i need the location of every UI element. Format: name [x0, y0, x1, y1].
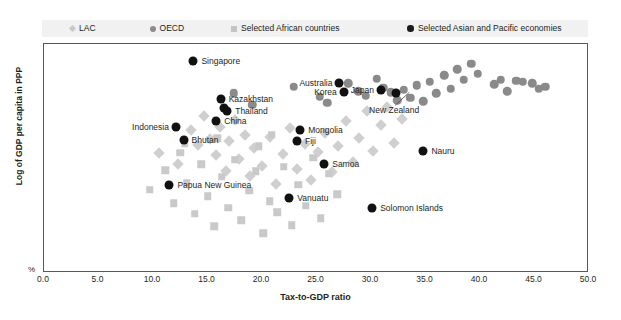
data-point-lac	[369, 147, 377, 155]
point-label: Kazakhstan	[229, 94, 273, 104]
data-point-african	[310, 154, 318, 162]
legend-item-oecd[interactable]: OECD	[150, 20, 185, 37]
data-point-african	[197, 161, 205, 169]
point-label: Japan	[351, 85, 374, 95]
square-icon	[231, 26, 237, 32]
x-axis-tick-label: 35.0	[416, 274, 433, 284]
data-point-lac	[241, 131, 249, 139]
x-axis-tick-label: 20.0	[253, 274, 270, 284]
point-label: Nauru	[431, 146, 454, 156]
point-label: Papua New Guinea	[177, 180, 251, 190]
data-point-lac	[155, 149, 163, 157]
y-axis-title: Log of GDP per capita in PPP	[14, 36, 24, 216]
data-point-african	[210, 222, 218, 230]
data-point-asia-pacific	[419, 146, 428, 155]
data-point-oecd	[446, 85, 455, 94]
data-point-lac	[272, 180, 280, 188]
x-axis-tick-label: 40.0	[471, 274, 488, 284]
data-point-oecd	[440, 71, 449, 80]
data-point-oecd	[419, 97, 428, 106]
point-label: Solomon Islands	[380, 203, 443, 213]
data-point-oecd	[432, 89, 441, 98]
data-point-african	[317, 214, 325, 222]
legend-item-lac[interactable]: LAC	[70, 20, 96, 37]
point-label: Fiji	[305, 136, 316, 146]
x-axis-tick-label: 0.0	[37, 274, 49, 284]
filled-circle-icon	[407, 25, 414, 32]
data-point-lac	[187, 126, 195, 134]
data-point-asia-pacific	[320, 160, 329, 169]
data-point-oecd	[372, 74, 381, 83]
data-point-oecd	[413, 81, 422, 90]
data-point-african	[259, 229, 267, 237]
diamond-icon	[69, 25, 76, 32]
data-point-african	[255, 142, 263, 150]
legend-label-lac: LAC	[79, 24, 96, 33]
data-point-african	[161, 166, 169, 174]
x-axis-title: Tax-to-GDP ratio	[43, 292, 588, 303]
x-axis-tick-label: 50.0	[580, 274, 597, 284]
data-point-lac	[390, 139, 398, 147]
chart-legend: LAC OECD Selected African countries Sele…	[42, 20, 588, 37]
point-label: Singapore	[201, 56, 240, 66]
data-point-lac	[342, 117, 350, 125]
data-point-african	[146, 186, 154, 194]
point-label: Korea	[314, 87, 337, 97]
data-point-african	[274, 209, 282, 217]
data-point-african	[204, 193, 212, 201]
data-point-oecd	[467, 59, 476, 68]
data-point-lac	[200, 112, 208, 120]
data-point-asia-pacific	[335, 79, 344, 88]
data-point-asia-pacific	[165, 180, 174, 189]
data-point-oecd	[400, 86, 409, 95]
x-axis-tick-label: 45.0	[525, 274, 542, 284]
data-point-asia-pacific	[376, 85, 385, 94]
data-point-asia-pacific	[296, 126, 305, 135]
data-point-african	[302, 202, 310, 210]
data-point-african	[325, 170, 333, 178]
point-label: Vanuatu	[297, 193, 328, 203]
plot-area: SingaporeKazakhstanThailandChinaIndonesi…	[43, 43, 588, 272]
point-label: Mongolia	[308, 125, 343, 135]
data-point-asia-pacific	[219, 104, 228, 113]
data-point-oecd	[503, 87, 512, 96]
data-point-oecd	[323, 98, 332, 107]
data-point-african	[288, 221, 296, 229]
legend-label-african: Selected African countries	[241, 24, 339, 33]
point-label: China	[224, 116, 246, 126]
data-point-african	[191, 210, 199, 218]
data-point-asia-pacific	[216, 95, 225, 104]
legend-item-asia-pacific[interactable]: Selected Asian and Pacific economies	[407, 20, 561, 37]
x-axis-tick-label: 10.0	[144, 274, 161, 284]
data-point-african	[177, 149, 185, 157]
data-point-oecd	[426, 78, 435, 87]
circle-icon	[150, 26, 156, 32]
data-point-oecd	[497, 75, 506, 84]
legend-item-african[interactable]: Selected African countries	[231, 20, 339, 37]
legend-label-asia-pacific: Selected Asian and Pacific economies	[418, 24, 562, 33]
x-axis-tick-label: 15.0	[198, 274, 215, 284]
data-point-asia-pacific	[292, 137, 301, 146]
data-point-oecd	[541, 82, 550, 91]
data-point-asia-pacific	[392, 89, 401, 98]
x-axis-tick-label: 30.0	[362, 274, 379, 284]
data-point-lac	[279, 150, 287, 158]
data-point-lac	[212, 151, 220, 159]
legend-label-oecd: OECD	[160, 24, 185, 33]
data-point-lac	[174, 160, 182, 168]
data-point-lac	[398, 115, 406, 123]
x-axis-ticks: 0.05.010.015.020.025.030.035.040.045.050…	[43, 274, 588, 288]
data-point-oecd	[459, 75, 468, 84]
data-point-oecd	[518, 78, 527, 87]
data-point-lac	[334, 142, 342, 150]
data-point-lac	[377, 121, 385, 129]
data-point-lac	[293, 165, 301, 173]
data-point-oecd	[453, 65, 462, 74]
point-label: Samoa	[332, 159, 359, 169]
data-point-lac	[355, 134, 363, 142]
x-axis-tick-label: 5.0	[92, 274, 104, 284]
point-label: Bhutan	[192, 135, 219, 145]
point-label: New Zealand	[369, 105, 419, 115]
scatter-chart: LAC OECD Selected African countries Sele…	[0, 0, 621, 320]
data-point-african	[252, 167, 260, 175]
